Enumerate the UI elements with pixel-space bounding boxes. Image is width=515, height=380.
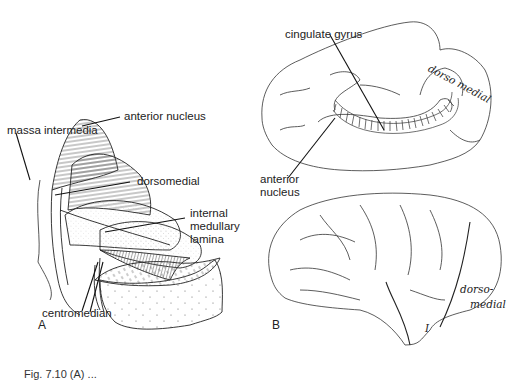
label-anterior-nucleus-b-2: nucleus bbox=[260, 186, 300, 198]
label-anterior-nucleus-b-1: anterior bbox=[260, 173, 299, 185]
panel-letter-b: B bbox=[272, 318, 280, 332]
lateral-brain-drawing bbox=[269, 193, 502, 345]
figure-caption: Fig. 7.10 (A) ... bbox=[24, 368, 97, 380]
label-dorsomedial-lateral-1: dorso- bbox=[460, 283, 493, 295]
label-anterior-nucleus: anterior nucleus bbox=[124, 110, 206, 122]
label-cingulate-gyrus: cingulate gyrus bbox=[285, 28, 362, 40]
label-insula-mark: I bbox=[425, 322, 429, 334]
label-dorsomedial: dorsomedial bbox=[137, 175, 200, 187]
label-dorsomedial-lateral-2: medial bbox=[470, 298, 506, 310]
label-internal-medullary-lamina-3: lamina bbox=[190, 233, 224, 245]
cingulate-band bbox=[333, 92, 458, 133]
label-internal-medullary-lamina-1: internal bbox=[190, 207, 228, 219]
panel-letter-a: A bbox=[38, 318, 46, 332]
label-internal-medullary-lamina-2: medullary bbox=[190, 220, 240, 232]
label-centromedian: centromedian bbox=[42, 307, 112, 319]
label-massa-intermedia: massa intermedia bbox=[7, 124, 98, 136]
medial-brain-drawing bbox=[262, 22, 491, 171]
